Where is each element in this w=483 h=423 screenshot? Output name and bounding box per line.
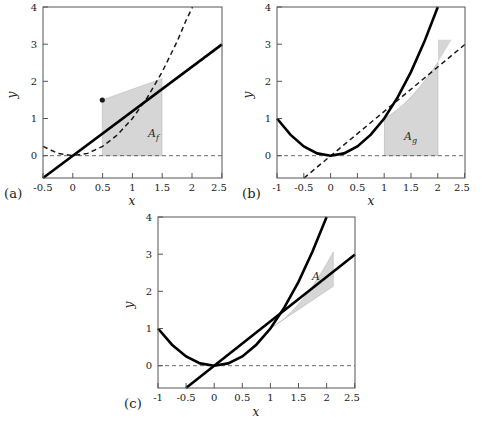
panel-tag-b: (b) xyxy=(242,186,261,201)
x-tick-label: -1 xyxy=(272,182,282,193)
x-tick-label: 2.5 xyxy=(454,182,470,193)
shaded-area-a xyxy=(270,252,333,329)
y-tick-label: 4 xyxy=(146,212,152,223)
y-tick-label: 2 xyxy=(265,76,271,87)
y-tick-label: 1 xyxy=(31,113,37,124)
panel-tag-a: (a) xyxy=(4,186,23,201)
x-axis-ticks: -0.5 0 0.5 1 1.5 2 2.5 xyxy=(33,173,227,193)
y-axis-ticks: 0 1 2 3 4 xyxy=(31,2,48,161)
region-label-subscript: g xyxy=(412,136,417,145)
x-axis-ticks: -1 -0.5 0 0.5 1 1.5 2 2.5 xyxy=(153,383,360,403)
x-tick-label: -0.5 xyxy=(294,182,313,193)
region-label-letter: A xyxy=(147,127,156,140)
y-tick-label: 2 xyxy=(146,286,152,297)
curve-line-solid xyxy=(43,44,222,178)
x-axis-title: x xyxy=(368,194,375,205)
y-tick-label: 4 xyxy=(31,2,37,13)
y-tick-label: 3 xyxy=(265,39,271,50)
panel-c: -1 -0.5 0 0.5 1 1.5 2 2.5 0 1 2 3 4 xyxy=(120,210,363,423)
x-tick-label: 0.5 xyxy=(234,392,250,403)
panel-b-plot: -1 -0.5 0 0.5 1 1.5 2 2.5 0 1 2 3 4 xyxy=(240,0,483,205)
panel-b: -1 -0.5 0 0.5 1 1.5 2 2.5 0 1 2 3 4 xyxy=(240,0,483,205)
panel-a-shaded-region xyxy=(102,79,162,156)
y-tick-label: 0 xyxy=(265,150,271,161)
intersection-dot xyxy=(100,97,105,102)
y-tick-label: 1 xyxy=(265,113,271,124)
x-tick-label: -1 xyxy=(153,392,163,403)
y-tick-label: 1 xyxy=(146,323,152,334)
y-tick-label: 4 xyxy=(265,2,271,13)
x-tick-label: 1.5 xyxy=(403,182,419,193)
curve-line-solid xyxy=(186,254,355,388)
y-axis-title: y xyxy=(241,91,255,99)
shaded-area-af xyxy=(102,79,162,156)
x-tick-label: -0.5 xyxy=(176,392,195,403)
x-tick-label: 1.5 xyxy=(154,182,170,193)
y-tick-label: 0 xyxy=(146,360,152,371)
y-tick-label: 0 xyxy=(31,150,37,161)
y-axis-ticks: 0 1 2 3 4 xyxy=(146,212,163,371)
x-tick-label: 1.5 xyxy=(291,392,307,403)
panel-c-plot: -1 -0.5 0 0.5 1 1.5 2 2.5 0 1 2 3 4 xyxy=(120,210,363,423)
region-label-letter: A xyxy=(403,130,412,143)
x-tick-label: 1 xyxy=(129,182,135,193)
region-label-a: A xyxy=(311,270,320,283)
x-tick-label: 1 xyxy=(381,182,387,193)
y-axis-title: y xyxy=(122,301,136,309)
panel-tag-c: (c) xyxy=(124,396,142,411)
panel-a-plot: -0.5 0 0.5 1 1.5 2 2.5 0 1 2 3 4 xyxy=(0,0,240,205)
x-tick-label: 2 xyxy=(189,182,195,193)
y-tick-label: 3 xyxy=(31,39,37,50)
y-tick-label: 3 xyxy=(146,249,152,260)
x-tick-label: 0.5 xyxy=(95,182,111,193)
x-tick-label: 2.5 xyxy=(344,392,360,403)
y-tick-label: 2 xyxy=(31,76,37,87)
figure-root: -0.5 0 0.5 1 1.5 2 2.5 0 1 2 3 4 xyxy=(0,0,483,423)
plot-frame xyxy=(158,217,355,388)
x-axis-ticks: -1 -0.5 0 0.5 1 1.5 2 2.5 xyxy=(272,173,470,193)
x-tick-label: 2 xyxy=(435,182,441,193)
x-tick-label: 0 xyxy=(327,182,333,193)
x-tick-label: 2.5 xyxy=(211,182,227,193)
x-tick-label: 0.5 xyxy=(349,182,365,193)
y-axis-title: y xyxy=(5,91,19,99)
curve-line-dashed xyxy=(304,44,465,178)
x-tick-label: 1 xyxy=(267,392,273,403)
x-tick-label: 2 xyxy=(323,392,329,403)
x-axis-title: x xyxy=(129,194,136,205)
x-tick-label: -0.5 xyxy=(33,182,52,193)
x-tick-label: 0 xyxy=(211,392,217,403)
region-label-letter: A xyxy=(311,270,320,283)
panel-a: -0.5 0 0.5 1 1.5 2 2.5 0 1 2 3 4 xyxy=(0,0,240,205)
x-tick-label: 0 xyxy=(70,182,76,193)
y-axis-ticks: 0 1 2 3 4 xyxy=(265,2,282,161)
panel-c-shaded-region xyxy=(270,252,333,329)
x-axis-title: x xyxy=(253,405,260,419)
